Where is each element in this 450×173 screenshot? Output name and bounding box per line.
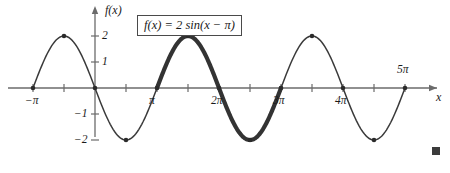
x-tick-label: 2π	[211, 95, 223, 107]
y-tick-label: −2	[74, 134, 88, 146]
curve-point-marker	[155, 86, 160, 91]
curve-point-marker	[248, 138, 253, 143]
x-axis-label: x	[436, 91, 441, 103]
curve-point-marker	[372, 138, 377, 143]
x-tick-label: π	[149, 95, 155, 107]
x-tick-label: −π	[25, 95, 39, 107]
sine-graph-figure: f(x) = 2 sin(x − π) f(x) x −ππ2π3π4π5π21…	[0, 0, 450, 173]
y-tick-label: −1	[74, 108, 88, 120]
function-equation-label: f(x) = 2 sin(x − π)	[137, 15, 242, 36]
x-tick-label: 3π	[273, 95, 285, 107]
curve-point-marker	[124, 138, 129, 143]
x-tick-label: 5π	[397, 64, 409, 76]
curve-point-marker	[217, 86, 222, 91]
y-tick-label: 1	[102, 56, 108, 68]
curve-point-marker	[310, 34, 315, 39]
y-tick-label: 2	[102, 30, 108, 42]
end-of-example-square	[432, 147, 440, 155]
y-axis-arrowhead	[92, 6, 98, 14]
curve-point-marker	[31, 86, 36, 91]
curve-point-marker	[341, 86, 346, 91]
curve-point-marker	[279, 86, 284, 91]
curve-point-marker	[93, 86, 98, 91]
curve-point-marker	[62, 34, 67, 39]
y-axis-label: f(x)	[105, 4, 122, 16]
curve-point-marker	[403, 86, 408, 91]
x-tick-label: 4π	[335, 95, 347, 107]
